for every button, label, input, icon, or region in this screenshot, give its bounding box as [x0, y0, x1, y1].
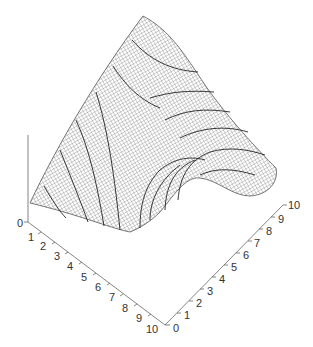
- svg-text:3: 3: [54, 250, 60, 262]
- surface-plot: 0 1 2 3 4 5 6 7 8 9 10 0 1 2 3 4 5 6 7 8…: [0, 0, 313, 347]
- y-axis-ticks: [165, 205, 287, 325]
- svg-text:1: 1: [28, 231, 34, 243]
- svg-text:3: 3: [207, 285, 213, 297]
- svg-text:2: 2: [40, 240, 46, 252]
- svg-text:0: 0: [173, 322, 179, 334]
- svg-text:2: 2: [196, 297, 202, 309]
- svg-text:9: 9: [278, 213, 284, 225]
- svg-text:4: 4: [219, 273, 225, 285]
- svg-text:10: 10: [288, 199, 300, 211]
- svg-text:7: 7: [109, 291, 115, 303]
- svg-text:4: 4: [67, 260, 73, 272]
- svg-text:6: 6: [95, 281, 101, 293]
- z-tick-label: 0: [17, 217, 23, 229]
- x-axis-ticks: [38, 232, 151, 316]
- svg-text:10: 10: [146, 323, 158, 335]
- svg-text:7: 7: [254, 237, 260, 249]
- svg-text:1: 1: [184, 309, 190, 321]
- svg-text:5: 5: [81, 271, 87, 283]
- svg-text:6: 6: [243, 249, 249, 261]
- svg-text:9: 9: [136, 312, 142, 324]
- x-axis-line: [28, 222, 165, 325]
- svg-text:8: 8: [266, 225, 272, 237]
- y-tick-labels: 0 1 2 3 4 5 6 7 8 9 10: [173, 199, 300, 334]
- svg-text:5: 5: [231, 261, 237, 273]
- svg-text:8: 8: [122, 302, 128, 314]
- x-tick-labels: 1 2 3 4 5 6 7 8 9 10: [28, 231, 158, 335]
